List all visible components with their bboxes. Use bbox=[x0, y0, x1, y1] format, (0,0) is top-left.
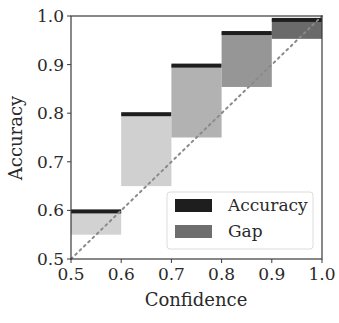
gap-bar bbox=[71, 210, 121, 234]
legend: Accuracy Gap bbox=[167, 192, 313, 249]
bin-5 bbox=[272, 18, 322, 39]
x-tick-label: 0.6 bbox=[108, 264, 135, 284]
y-tick-label: 0.9 bbox=[37, 55, 64, 75]
x-axis-label: Confidence bbox=[145, 289, 248, 310]
x-tick-label: 1.0 bbox=[308, 264, 335, 284]
legend-label-accuracy: Accuracy bbox=[227, 195, 308, 215]
x-axis: 0.50.60.70.80.91.0 bbox=[57, 259, 335, 284]
x-tick-label: 0.8 bbox=[208, 264, 235, 284]
gap-bar bbox=[171, 65, 221, 138]
accuracy-bar bbox=[71, 209, 121, 213]
x-tick-label: 0.9 bbox=[258, 264, 285, 284]
legend-label-gap: Gap bbox=[228, 221, 263, 241]
y-tick-label: 0.8 bbox=[37, 103, 64, 123]
legend-swatch-accuracy bbox=[175, 199, 212, 212]
gap-bar bbox=[222, 32, 272, 87]
y-tick-label: 0.7 bbox=[37, 152, 64, 172]
accuracy-bar bbox=[222, 31, 272, 35]
bin-2 bbox=[121, 112, 171, 186]
x-tick-label: 0.5 bbox=[57, 264, 84, 284]
accuracy-bar bbox=[272, 18, 322, 22]
bin-1 bbox=[71, 209, 121, 234]
gap-bar bbox=[121, 113, 171, 186]
reliability-diagram: 0.50.60.70.80.91.0 0.50.60.70.80.91.0 Co… bbox=[0, 0, 339, 323]
x-tick-label: 0.7 bbox=[158, 264, 185, 284]
bin-3 bbox=[171, 64, 221, 138]
accuracy-bar bbox=[171, 64, 221, 68]
y-axis-label: Accuracy bbox=[5, 95, 26, 181]
accuracy-bar bbox=[121, 112, 171, 116]
y-tick-label: 0.6 bbox=[37, 200, 64, 220]
legend-swatch-gap bbox=[175, 225, 212, 238]
y-tick-label: 1.0 bbox=[37, 6, 64, 26]
bin-4 bbox=[222, 31, 272, 87]
y-axis: 0.50.60.70.80.91.0 bbox=[37, 6, 71, 269]
